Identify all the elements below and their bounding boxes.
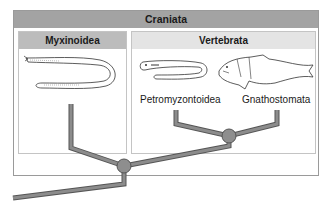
- vertebrata-node: [222, 129, 236, 143]
- cladogram: [0, 0, 335, 216]
- craniata-node: [117, 159, 131, 173]
